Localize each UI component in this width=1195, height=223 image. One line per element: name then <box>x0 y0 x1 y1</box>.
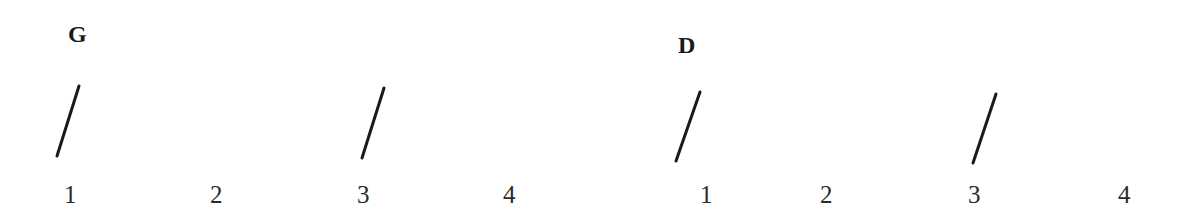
strum-slash-icon <box>362 88 384 158</box>
beat-number: 1 <box>700 182 713 207</box>
beat-number: 2 <box>820 182 833 207</box>
beat-number: 3 <box>968 182 981 207</box>
strum-slash-icon <box>57 86 79 156</box>
beat-number: 3 <box>357 182 370 207</box>
beat-number: 4 <box>1118 182 1131 207</box>
strum-slashes <box>0 0 1195 223</box>
chord-label-g: G <box>68 22 87 46</box>
strum-slash-icon <box>676 92 700 161</box>
beat-number: 1 <box>64 182 77 207</box>
strum-slash-icon <box>973 94 996 163</box>
beat-number: 4 <box>503 182 516 207</box>
beat-number: 2 <box>210 182 223 207</box>
strum-pattern-diagram: G D 1 2 3 4 1 2 3 4 <box>0 0 1195 223</box>
chord-label-d: D <box>678 33 695 57</box>
